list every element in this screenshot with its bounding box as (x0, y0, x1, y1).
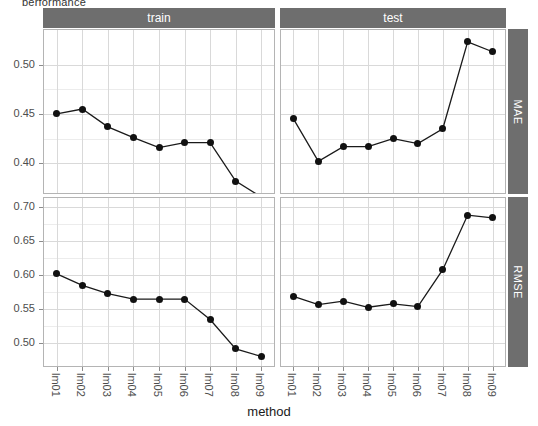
x-tick (82, 367, 83, 371)
data-point (340, 143, 347, 150)
y-tick-label: 0.70 (1, 200, 35, 212)
data-point (156, 296, 163, 303)
x-tick (133, 367, 134, 371)
x-tick-label: lm09 (254, 373, 266, 397)
x-tick-label: lm01 (50, 373, 62, 397)
strip-header-test: test (280, 8, 506, 28)
y-tick (39, 275, 43, 276)
data-point (258, 193, 265, 194)
facet-chart: performance train test MAE RMSE 0.400.45… (0, 0, 538, 426)
x-tick (293, 367, 294, 371)
data-point (258, 353, 265, 360)
strip-label-test: test (383, 11, 402, 25)
y-tick-label: 0.65 (1, 234, 35, 246)
x-tick (493, 367, 494, 371)
x-axis-title: method (0, 404, 538, 419)
strip-label-rmse: RMSE (512, 265, 524, 298)
x-tick-label: lm02 (75, 373, 87, 397)
x-tick-label: lm05 (386, 373, 398, 397)
data-point (365, 143, 372, 150)
data-point (181, 296, 188, 303)
x-tick (261, 367, 262, 371)
y-tick-label: 0.45 (1, 107, 35, 119)
data-point (464, 212, 471, 219)
data-point (130, 296, 137, 303)
data-point (207, 139, 214, 146)
x-tick-label: lm03 (101, 373, 113, 397)
x-tick-label: lm08 (229, 373, 241, 397)
panel-mae-train (43, 29, 275, 194)
x-tick-label: lm04 (361, 373, 373, 397)
series-line (281, 30, 505, 193)
y-tick-label: 0.55 (1, 302, 35, 314)
y-tick (39, 343, 43, 344)
panel-mae-test (280, 29, 506, 194)
y-tick-label: 0.50 (1, 58, 35, 70)
data-point (365, 304, 372, 311)
x-tick (393, 367, 394, 371)
data-point (232, 178, 239, 185)
data-point (156, 144, 163, 151)
x-tick (185, 367, 186, 371)
x-tick (368, 367, 369, 371)
data-point (340, 298, 347, 305)
y-tick (39, 309, 43, 310)
x-tick (418, 367, 419, 371)
data-point (290, 293, 297, 300)
strip-header-train: train (43, 8, 275, 28)
y-tick (39, 163, 43, 164)
x-tick-label: lm06 (411, 373, 423, 397)
data-point (79, 282, 86, 289)
series-line (281, 198, 505, 366)
x-tick (57, 367, 58, 371)
x-tick (159, 367, 160, 371)
panel-rmse-test (280, 197, 506, 367)
data-point (207, 316, 214, 323)
x-tick-label: lm01 (286, 373, 298, 397)
data-point (390, 300, 397, 307)
x-tick-label: lm06 (178, 373, 190, 397)
x-tick-label: lm09 (486, 373, 498, 397)
strip-header-rmse: RMSE (508, 197, 528, 367)
data-point (390, 135, 397, 142)
x-tick-label: lm08 (461, 373, 473, 397)
x-tick-label: lm05 (152, 373, 164, 397)
x-tick (343, 367, 344, 371)
y-tick-label: 0.60 (1, 268, 35, 280)
data-point (79, 106, 86, 113)
series-line (44, 198, 274, 366)
strip-label-mae: MAE (512, 99, 524, 124)
x-tick (236, 367, 237, 371)
y-tick (39, 241, 43, 242)
x-tick (468, 367, 469, 371)
x-tick-label: lm07 (203, 373, 215, 397)
x-tick-label: lm07 (436, 373, 448, 397)
x-tick (210, 367, 211, 371)
x-tick-label: lm04 (126, 373, 138, 397)
y-tick-label: 0.40 (1, 156, 35, 168)
panel-rmse-train (43, 197, 275, 367)
series-line (44, 30, 274, 193)
y-tick (39, 65, 43, 66)
y-tick (39, 114, 43, 115)
clipped-heading: performance (22, 0, 86, 6)
x-tick (443, 367, 444, 371)
data-point (315, 301, 322, 308)
strip-header-mae: MAE (508, 29, 528, 194)
x-tick (318, 367, 319, 371)
y-tick-label: 0.50 (1, 336, 35, 348)
x-tick-label: lm03 (336, 373, 348, 397)
y-tick (39, 207, 43, 208)
data-point (315, 158, 322, 165)
strip-label-train: train (147, 11, 170, 25)
x-tick (108, 367, 109, 371)
x-tick-label: lm02 (311, 373, 323, 397)
